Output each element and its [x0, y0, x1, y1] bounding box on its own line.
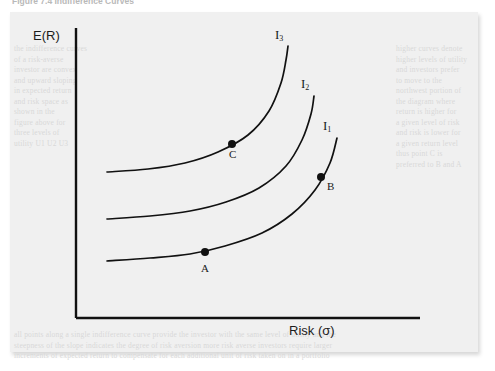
curve-i1	[107, 138, 337, 261]
data-point-b	[317, 173, 325, 181]
curve-label-i2: I2	[301, 76, 309, 92]
curve-label-i3: I3	[275, 27, 283, 43]
point-label-b: B	[327, 180, 334, 192]
curve-i3	[107, 46, 288, 172]
figure-container: Figure 7.4 Indifference Curves the indif…	[0, 0, 495, 371]
data-point-c	[228, 140, 236, 148]
x-axis-label: Risk (σ)	[289, 323, 335, 338]
point-label-c: C	[229, 148, 236, 160]
points-group	[201, 140, 325, 256]
y-axis-label: E(R)	[33, 28, 60, 43]
axes-group	[76, 28, 420, 318]
data-point-a	[201, 248, 209, 256]
curve-i2	[107, 96, 314, 219]
plot-svg	[0, 0, 495, 371]
point-label-a: A	[201, 262, 209, 274]
curve-label-i1: I1	[323, 118, 331, 134]
